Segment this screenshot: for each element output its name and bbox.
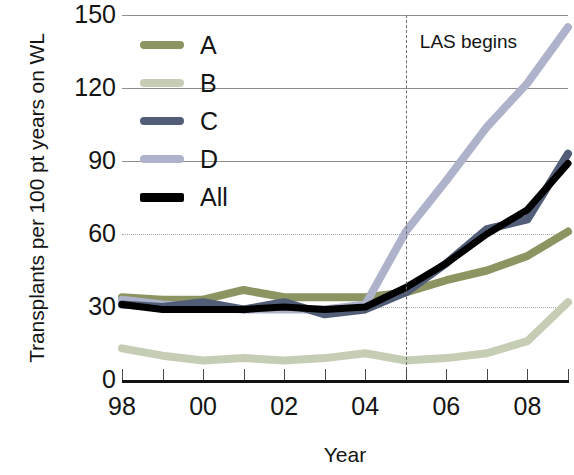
x-tick-label-04: 04: [335, 394, 395, 419]
legend-label-d: D: [200, 147, 218, 172]
legend-label-all: All: [200, 185, 228, 210]
x-tick-label-98: 98: [92, 394, 152, 419]
legend-item-c[interactable]: C: [140, 102, 260, 140]
x-tick-2006: [446, 369, 447, 380]
x-tick-1999: [163, 369, 164, 380]
y-tick-label-150: 150: [52, 2, 116, 27]
x-tick-2009: [568, 369, 569, 380]
y-tick-label-0: 0: [52, 367, 116, 392]
legend-item-a[interactable]: A: [140, 26, 260, 64]
las-begins-label: LAS begins: [420, 31, 517, 53]
y-tick-label-60: 60: [52, 221, 116, 246]
x-tick-2003: [325, 369, 326, 380]
legend-label-a: A: [200, 33, 217, 58]
x-tick-label-00: 00: [173, 394, 233, 419]
x-axis-line: [122, 380, 569, 383]
legend-item-b[interactable]: B: [140, 64, 260, 102]
y-tick-label-30: 30: [52, 294, 116, 319]
legend-swatch-a-icon: [140, 41, 184, 49]
x-tick-2007: [487, 369, 488, 380]
x-tick-1998: [122, 369, 123, 380]
legend-swatch-all-icon: [140, 193, 184, 202]
x-tick-label-08: 08: [497, 394, 557, 419]
x-axis-title: Year: [122, 443, 568, 467]
series-line-A: [122, 232, 568, 300]
legend-swatch-c-icon: [140, 117, 184, 125]
legend-item-d[interactable]: D: [140, 140, 260, 178]
y-axis-tick-labels: 1501209060300: [46, 0, 116, 400]
legend-label-c: C: [200, 109, 218, 134]
legend-label-b: B: [200, 71, 217, 96]
x-tick-2005: [406, 369, 407, 380]
y-tick-label-120: 120: [52, 75, 116, 100]
x-tick-2002: [284, 369, 285, 380]
x-tick-2001: [244, 369, 245, 380]
x-tick-2000: [203, 369, 204, 380]
legend: ABCDAll: [140, 26, 260, 216]
x-tick-label-02: 02: [254, 394, 314, 419]
legend-swatch-b-icon: [140, 79, 184, 87]
line-chart-figure: Transplants per 100 pt years on WL 15012…: [0, 0, 574, 475]
las-begins-marker-line: [406, 15, 407, 380]
x-tick-2004: [365, 369, 366, 380]
x-tick-label-06: 06: [416, 394, 476, 419]
x-tick-2008: [527, 369, 528, 380]
legend-swatch-d-icon: [140, 155, 184, 163]
y-tick-label-90: 90: [52, 148, 116, 173]
legend-item-all[interactable]: All: [140, 178, 260, 216]
